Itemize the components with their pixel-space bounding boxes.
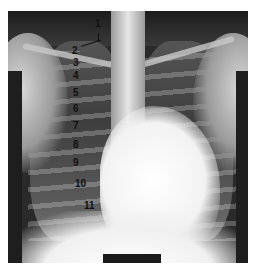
scale-bar xyxy=(103,254,161,263)
rib-label-4: 4 xyxy=(73,71,79,81)
rib-label-8: 8 xyxy=(73,140,79,150)
left-soft-tissue xyxy=(236,71,248,263)
right-soft-tissue xyxy=(8,71,22,263)
rib-label-5: 5 xyxy=(73,88,79,98)
rib-label-10: 10 xyxy=(75,179,86,189)
rib-label-1: 1 xyxy=(95,19,101,29)
chest-xray-image xyxy=(8,11,248,263)
rib-label-9: 9 xyxy=(73,158,79,168)
rib-label-11: 11 xyxy=(84,201,95,211)
rib-label-7: 7 xyxy=(73,121,79,131)
rib-label-6: 6 xyxy=(73,104,79,114)
rib-label-3: 3 xyxy=(73,58,79,68)
rib-label-2: 2 xyxy=(72,46,78,56)
